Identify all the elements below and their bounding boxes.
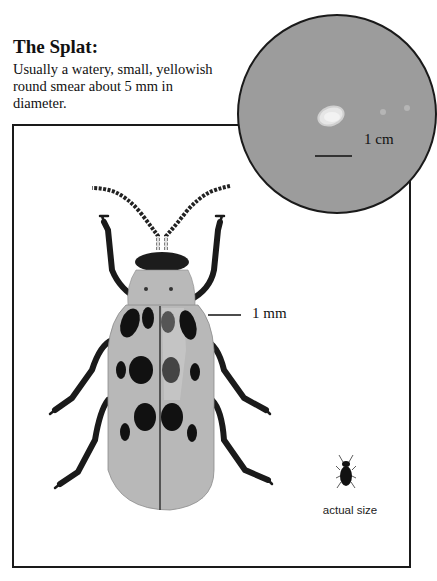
magnified-splat-view — [237, 14, 437, 214]
beetle-head — [135, 252, 189, 272]
splat-mark — [316, 103, 347, 129]
pronotum — [128, 270, 195, 306]
scale-label-cm: 1 cm — [364, 131, 394, 148]
antennae — [92, 186, 230, 250]
actual-size-beetle-icon — [336, 455, 356, 488]
actual-size-label: actual size — [320, 504, 380, 516]
scale-label-mm: 1 mm — [252, 305, 287, 322]
